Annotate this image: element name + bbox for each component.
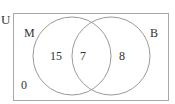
intersection-count: 7 [80, 49, 86, 63]
universe-rectangle [14, 14, 169, 101]
set-b-label: B [150, 26, 158, 40]
set-m-label: M [24, 26, 35, 40]
outside-count: 0 [21, 78, 27, 92]
venn-diagram: U M B 15 7 8 0 [0, 0, 175, 104]
universe-label: U [1, 12, 11, 27]
m-only-count: 15 [50, 49, 62, 63]
b-only-count: 8 [119, 49, 125, 63]
